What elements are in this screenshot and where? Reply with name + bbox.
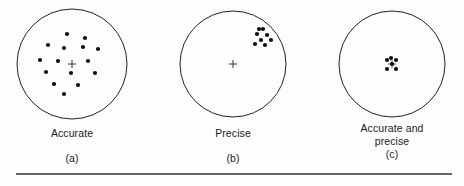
center-cross-a [68,60,76,68]
data-dots-c [385,56,398,71]
panel-b-index-label: (b) [173,152,293,165]
panel-c-index-label: (c) [332,148,452,161]
panel-a-caption: Accurate [12,127,132,140]
panel-c [339,11,445,117]
accuracy-precision-figure: Accurate (a) Precise (b) Accurate and pr… [0,0,464,186]
panel-a-index-label: (a) [12,152,132,165]
panel-b-caption: Precise [173,127,293,140]
panel-a [17,9,127,119]
data-dots-b [253,27,273,47]
panel-c-caption: Accurate and precise [332,122,452,148]
panel-b [180,11,286,117]
center-cross-b [229,60,237,68]
